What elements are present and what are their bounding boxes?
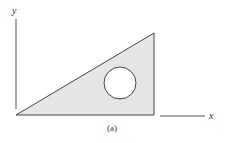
x-axis-label: x: [208, 110, 214, 121]
diagram-canvas: y x (a): [0, 0, 230, 143]
y-axis-label: y: [11, 5, 17, 16]
figure-caption: (a): [107, 123, 117, 133]
circular-hole: [104, 67, 136, 99]
